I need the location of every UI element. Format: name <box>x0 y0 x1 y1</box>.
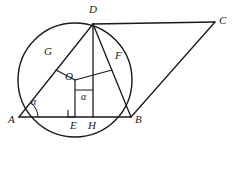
vertex-label-A: A <box>8 114 15 125</box>
vertex-label-B: B <box>135 114 142 125</box>
angle-label-A: α <box>31 97 36 107</box>
right-angle-marker-E <box>68 110 75 117</box>
vertex-label-C: C <box>219 15 226 26</box>
vertex-label-H: H <box>88 120 96 131</box>
vertex-label-G: G <box>44 46 52 57</box>
vertex-label-E: E <box>70 120 77 131</box>
vertex-label-F: F <box>115 50 122 61</box>
segment-BC <box>131 22 215 117</box>
geometry-canvas <box>0 0 236 170</box>
geometry-figure: A B C D E F G H O α α <box>0 0 236 170</box>
vertex-label-D: D <box>89 4 97 15</box>
angle-label-H: α <box>81 92 86 102</box>
segment-DC <box>93 22 215 24</box>
vertex-label-O: O <box>65 71 73 82</box>
